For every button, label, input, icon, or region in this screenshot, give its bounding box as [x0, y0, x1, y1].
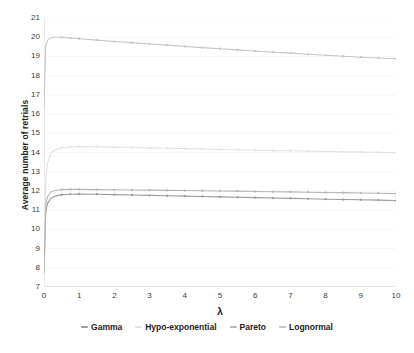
series-marker	[219, 190, 221, 192]
x-axis-title: λ	[44, 306, 396, 317]
chart-canvas	[44, 18, 396, 287]
series-marker	[201, 195, 203, 197]
series-marker	[113, 189, 115, 191]
y-tick-label: 9	[36, 245, 40, 253]
series-marker	[96, 193, 98, 195]
series-marker	[377, 192, 379, 194]
series-marker	[307, 191, 309, 193]
series-marker	[184, 45, 186, 47]
series-marker	[360, 199, 362, 201]
legend-item-label: Gamma	[91, 322, 122, 332]
series-marker	[272, 149, 274, 151]
y-tick-label: 11	[32, 206, 40, 214]
x-tick-label: 7	[288, 292, 292, 300]
legend-swatch-icon	[135, 326, 142, 328]
series-marker	[78, 193, 80, 195]
series-marker	[148, 43, 150, 45]
series-marker	[184, 148, 186, 150]
series-marker	[254, 197, 256, 199]
y-tick-label: 7	[36, 283, 40, 291]
series-marker	[113, 146, 115, 148]
series-marker	[324, 54, 326, 56]
x-tick-label: 3	[147, 292, 151, 300]
series-marker	[60, 188, 62, 190]
series-line	[44, 147, 396, 272]
series-marker	[254, 149, 256, 151]
series-marker	[360, 192, 362, 194]
series-layer	[44, 36, 396, 272]
series-marker	[78, 38, 80, 40]
series-marker	[201, 148, 203, 150]
series-marker	[201, 190, 203, 192]
series-marker	[148, 147, 150, 149]
y-tick-label: 15	[31, 129, 40, 137]
chart-legend: GammaHypo-exponentialParetoLognormal	[0, 322, 414, 332]
legend-swatch-icon	[81, 326, 88, 328]
series-marker	[395, 152, 396, 154]
series-line	[44, 189, 396, 271]
series-marker	[342, 198, 344, 200]
series-marker	[377, 151, 379, 153]
y-tick-label: 8	[36, 264, 40, 272]
x-tick-label: 5	[218, 292, 222, 300]
series-line	[44, 194, 396, 273]
series-marker	[236, 149, 238, 151]
series-marker	[289, 191, 291, 193]
series-marker	[307, 150, 309, 152]
legend-item[interactable]: Lognormal	[279, 322, 333, 332]
y-tick-label: 21	[31, 14, 40, 22]
series-marker	[78, 145, 80, 147]
series-marker	[69, 146, 71, 148]
legend-item[interactable]: Hypo-exponential	[135, 322, 216, 332]
x-tick-label: 6	[253, 292, 257, 300]
series-marker	[184, 195, 186, 197]
series-marker	[219, 148, 221, 150]
legend-swatch-icon	[279, 326, 286, 328]
series-marker	[219, 48, 221, 50]
legend-item-label: Hypo-exponential	[145, 322, 216, 332]
y-tick-label: 20	[31, 33, 40, 41]
y-tick-label: 16	[31, 110, 40, 118]
x-tick-label: 10	[392, 292, 401, 300]
series-marker	[166, 189, 168, 191]
y-tick-label: 14	[31, 149, 40, 157]
series-marker	[307, 198, 309, 200]
series-marker	[342, 151, 344, 153]
series-marker	[395, 199, 396, 201]
series-marker	[272, 197, 274, 199]
x-tick-label: 9	[359, 292, 363, 300]
series-marker	[395, 192, 396, 194]
series-marker	[324, 150, 326, 152]
series-marker	[96, 146, 98, 148]
y-axis-title: Average number of retrials	[20, 75, 30, 235]
x-tick-label: 0	[42, 292, 46, 300]
series-marker	[236, 190, 238, 192]
series-marker	[342, 55, 344, 57]
legend-item[interactable]: Pareto	[230, 322, 266, 332]
series-marker	[219, 196, 221, 198]
series-marker	[148, 189, 150, 191]
series-marker	[289, 150, 291, 152]
y-tick-label: 12	[31, 187, 40, 195]
x-tick-label: 2	[112, 292, 116, 300]
series-marker	[289, 197, 291, 199]
plot-area: 789101112131415161718192021 012345678910	[44, 18, 396, 287]
legend-swatch-icon	[230, 326, 237, 328]
series-marker	[69, 188, 71, 190]
series-marker	[131, 41, 133, 43]
series-marker	[342, 192, 344, 194]
legend-item-label: Lognormal	[289, 322, 333, 332]
series-marker	[289, 52, 291, 54]
series-marker	[96, 188, 98, 190]
series-marker	[96, 39, 98, 41]
series-marker	[131, 189, 133, 191]
series-marker	[395, 58, 396, 60]
series-marker	[324, 198, 326, 200]
series-marker	[307, 53, 309, 55]
series-marker	[131, 194, 133, 196]
series-marker	[360, 56, 362, 58]
series-marker	[254, 190, 256, 192]
series-marker	[236, 196, 238, 198]
legend-item[interactable]: Gamma	[81, 322, 122, 332]
series-marker	[377, 57, 379, 59]
